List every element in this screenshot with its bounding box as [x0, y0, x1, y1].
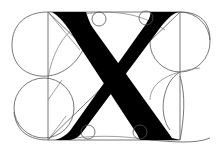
serif-circle-top-left [92, 12, 106, 26]
left-bottom-arc [14, 112, 48, 140]
right-middle-arc [150, 68, 200, 100]
diagonal-left-small [48, 80, 62, 100]
construction-svg [0, 0, 219, 149]
left-lower-circle [14, 78, 74, 138]
right-lower-arc-2 [180, 76, 184, 140]
right-lower-arc [163, 72, 180, 130]
letter-construction-diagram: Geometric construction of the capital le… [0, 0, 219, 149]
